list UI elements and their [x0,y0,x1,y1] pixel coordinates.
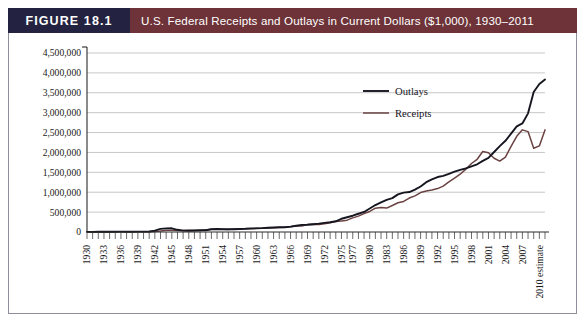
x-axis-tick-label: 1969 [302,245,313,264]
y-axis-labels-group: 4,500,0004,000,0003,500,0003,000,0002,50… [43,47,82,237]
x-axis-tick-label: 1977 [347,245,358,264]
x-axis-tick-label: 1983 [381,245,392,264]
figure-number-badge: FIGURE 18.1 [8,8,130,33]
chart-plot-container: 4,500,0004,000,0003,500,0003,000,0002,50… [8,33,577,314]
x-axis-tick-label: 1975 [336,245,347,264]
x-axis-tick-label: 1933 [98,245,109,264]
x-axis-tick-label: 1960 [251,245,262,264]
y-axis-tick-label: 2,000,000 [43,147,82,158]
x-axis-labels-group: 1930193319361939194219451948195119541957… [81,245,544,299]
x-axis-tick-label: 1930 [81,245,92,264]
series-line-outlays [87,80,545,232]
chart-legend: OutlaysReceipts [363,86,431,119]
x-axis-tick-label: 1945 [166,245,177,264]
x-axis-tick-label: 1986 [398,245,409,264]
x-axis-tick-label: 1989 [415,245,426,264]
figure-root: FIGURE 18.1 U.S. Federal Receipts and Ou… [0,0,587,327]
figure-title: U.S. Federal Receipts and Outlays in Cur… [130,8,577,33]
data-series-group [87,80,545,232]
legend-label-outlays: Outlays [395,86,428,97]
x-axis-tick-label: 1995 [449,245,460,264]
y-axis-tick-label: 3,500,000 [43,87,82,98]
x-axis-tick-label: 1948 [183,245,194,264]
y-axis-tick-label: 1,000,000 [43,187,82,198]
y-axis-tick-label: 3,000,000 [43,107,82,118]
figure-header: FIGURE 18.1 U.S. Federal Receipts and Ou… [8,8,577,33]
gridlines-group [87,53,545,212]
chart-svg: 4,500,0004,000,0003,500,0003,000,0002,50… [8,33,577,314]
x-axis-tick-label: 1957 [234,245,245,264]
x-axis-ticks-group [87,232,545,239]
x-axis-tick-label: 1980 [364,245,375,264]
x-axis-tick-label: 1998 [466,245,477,264]
y-axis-tick-label: 2,500,000 [43,127,82,138]
x-axis-tick-label: 1936 [115,245,126,264]
y-axis-tick-label: 1,500,000 [43,167,82,178]
x-axis-tick-label: 1966 [285,245,296,264]
x-axis-tick-label: 1942 [149,245,160,264]
x-axis-tick-label: 1939 [132,245,143,264]
x-axis-tick-label: 1972 [319,245,330,264]
y-axis-tick-label: 0 [76,226,81,237]
x-axis-tick-label: 1951 [200,245,211,264]
x-axis-tick-label: 2007 [517,245,528,264]
y-axis-tick-label: 500,000 [50,207,81,218]
y-axis-tick-label: 4,000,000 [43,67,82,78]
x-axis-tick-label: 2010 estimate [534,245,545,299]
x-axis-tick-label: 1992 [432,245,443,264]
x-axis-tick-label: 2001 [483,245,494,264]
legend-label-receipts: Receipts [395,108,431,119]
x-axis-tick-label: 2004 [500,245,511,264]
x-axis-tick-label: 1954 [217,245,228,264]
y-axis-tick-label: 4,500,000 [43,47,82,58]
series-line-receipts [87,130,545,232]
x-axis-tick-label: 1963 [268,245,279,264]
axes-group [82,47,549,232]
